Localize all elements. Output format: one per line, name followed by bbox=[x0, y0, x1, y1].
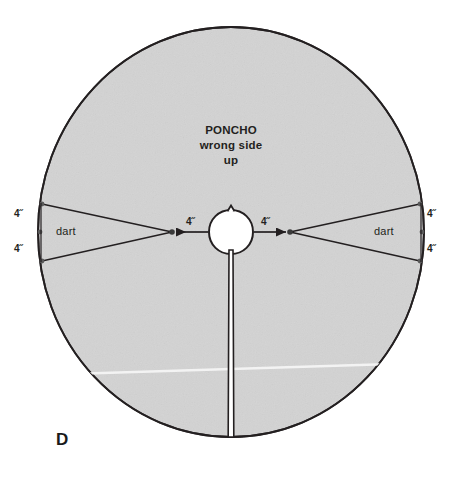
poncho-diagram: PONCHO wrong side up dart dart 4˝ 4˝ 4˝ … bbox=[0, 0, 456, 486]
dart-right-upper-dot bbox=[418, 202, 423, 207]
dart-right-mid-dot bbox=[420, 230, 425, 235]
dart-left-label: dart bbox=[56, 225, 76, 237]
dart-left-mid-dot bbox=[38, 230, 43, 235]
measure-right-upper-label: 4˝ bbox=[427, 208, 436, 219]
poncho-title-line-2: wrong side bbox=[171, 138, 291, 153]
dart-left-point-dot bbox=[169, 229, 175, 235]
dart-right-label: dart bbox=[374, 225, 394, 237]
poncho-illustration bbox=[0, 0, 456, 486]
measure-left-lower-label: 4˝ bbox=[14, 243, 23, 254]
dart-left-lower-dot bbox=[40, 259, 45, 264]
measure-right-lower-label: 4˝ bbox=[427, 243, 436, 254]
poncho-title-block: PONCHO wrong side up bbox=[171, 123, 291, 168]
poncho-title-line-3: up bbox=[171, 153, 291, 168]
dart-right-lower-dot bbox=[418, 259, 423, 264]
measure-left-upper-label: 4˝ bbox=[14, 208, 23, 219]
measure-center-right-label: 4˝ bbox=[261, 216, 270, 227]
front-slit bbox=[228, 250, 234, 437]
poncho-title-line-1: PONCHO bbox=[171, 123, 291, 138]
dart-left-upper-dot bbox=[40, 202, 45, 207]
plate-label: D bbox=[56, 430, 68, 450]
dart-right-point-dot bbox=[287, 229, 293, 235]
measure-center-left-label: 4˝ bbox=[186, 216, 195, 227]
